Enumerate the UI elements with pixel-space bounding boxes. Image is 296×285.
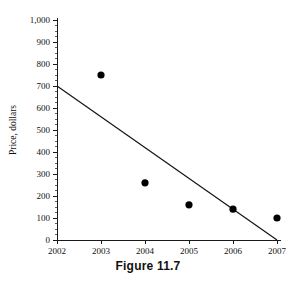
- regression-trend-line: [57, 86, 277, 240]
- x-tick-label: 2005: [180, 246, 199, 256]
- y-tick-label: 100: [37, 213, 51, 223]
- y-tick-label: 700: [37, 81, 51, 91]
- data-point: [185, 201, 192, 208]
- data-point: [97, 71, 104, 78]
- y-tick-label: 400: [37, 147, 51, 157]
- y-axis-title: Price, dollars: [8, 105, 18, 155]
- y-axis-tick-labels: 01002003004005006007008009001,000: [30, 15, 51, 245]
- y-tick-label: 0: [46, 235, 51, 245]
- x-tick-label: 2002: [48, 246, 66, 256]
- x-axis-tick-marks: [57, 240, 277, 244]
- data-point: [229, 206, 236, 213]
- figure-caption: Figure 11.7: [0, 259, 296, 273]
- x-tick-label: 2004: [136, 246, 155, 256]
- y-tick-label: 1,000: [30, 15, 51, 25]
- data-point: [273, 214, 280, 221]
- y-tick-label: 200: [37, 191, 51, 201]
- scatter-plot: 01002003004005006007008009001,000 200220…: [0, 0, 296, 285]
- figure-container: 01002003004005006007008009001,000 200220…: [0, 0, 296, 285]
- y-tick-label: 300: [37, 169, 51, 179]
- data-point: [141, 179, 148, 186]
- y-tick-label: 500: [37, 125, 51, 135]
- x-tick-label: 2007: [268, 246, 287, 256]
- x-tick-label: 2006: [224, 246, 243, 256]
- y-tick-label: 800: [37, 59, 51, 69]
- data-points-group: [97, 71, 280, 221]
- y-tick-label: 600: [37, 103, 51, 113]
- x-tick-label: 2003: [92, 246, 111, 256]
- y-tick-label: 900: [37, 37, 51, 47]
- x-axis-tick-labels: 200220032004200520062007: [48, 246, 287, 256]
